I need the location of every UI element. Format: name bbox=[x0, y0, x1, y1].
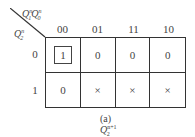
row-label-0: 0 bbox=[29, 48, 41, 60]
cell-r0-c11: 0 bbox=[116, 38, 151, 73]
cell-r1-c11: × bbox=[116, 73, 151, 108]
column-label-00: 00 bbox=[45, 23, 80, 35]
row-label-1: 1 bbox=[29, 84, 41, 96]
cell-r0-c10: 0 bbox=[150, 38, 185, 73]
row-variable-label: Qn2 bbox=[14, 26, 23, 43]
figure-caption: (a) Qn+12 bbox=[100, 113, 123, 137]
column-label-11: 11 bbox=[116, 23, 151, 35]
column-label-01: 01 bbox=[80, 23, 115, 35]
column-variable-label: Qn1Qn0 bbox=[22, 6, 40, 23]
cell-r0-c00: 1 bbox=[46, 38, 81, 73]
cell-r1-c01: × bbox=[81, 73, 116, 108]
column-label-10: 10 bbox=[151, 23, 186, 35]
cell-r1-c00: 0 bbox=[46, 73, 81, 108]
cell-r0-c01: 0 bbox=[81, 38, 116, 73]
karnaugh-map-grid: 1 0 0 0 0 × × × bbox=[45, 37, 186, 108]
grouping-box: 1 bbox=[54, 46, 72, 64]
cell-r1-c10: × bbox=[150, 73, 185, 108]
